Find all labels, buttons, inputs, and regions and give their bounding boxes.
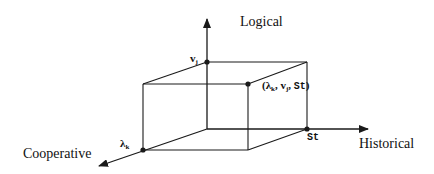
vj-subscript: j	[196, 58, 198, 66]
cube-edges	[143, 62, 307, 150]
lk-point	[140, 147, 145, 152]
st-point	[304, 126, 309, 131]
lk-label: λk	[120, 138, 129, 151]
logical-axis-label: Logical	[240, 15, 283, 29]
lk-subscript: k	[125, 143, 129, 151]
st-label: St	[307, 133, 319, 143]
coordinate-cube-diagram: Logical Historical Cooperative vj St λk …	[0, 0, 434, 174]
historical-axis-label: Historical	[359, 137, 414, 151]
corner-coordinate-label: (λk, vj, St)	[262, 80, 310, 93]
corner-close-paren: )	[306, 79, 310, 91]
vj-point	[204, 59, 209, 64]
st-symbol: St	[307, 132, 319, 143]
cooperative-axis	[99, 129, 207, 166]
corner-point	[245, 81, 250, 86]
cooperative-axis-label: Cooperative	[23, 147, 91, 161]
vj-label: vj	[190, 53, 198, 66]
corner-st: St	[294, 81, 306, 92]
